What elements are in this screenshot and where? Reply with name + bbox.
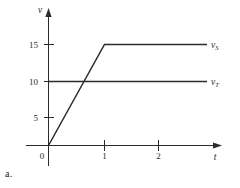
x-tick-label-1: 1 — [102, 151, 107, 161]
velocity-time-chart: 15 10 5 0 1 2 v t vS vT — [0, 0, 240, 188]
figure-caption: a. — [5, 168, 12, 179]
series-label-vs: vS — [211, 40, 219, 51]
x-tick-label-2: 2 — [156, 151, 161, 161]
series-label-vs-subscript: S — [215, 44, 219, 51]
series-label-vt-subscript: T — [215, 81, 219, 88]
series-line-vs — [49, 45, 208, 146]
y-axis-arrow-icon — [45, 8, 51, 17]
y-tick-label-15: 15 — [29, 40, 39, 50]
series-label-vt: vT — [211, 77, 219, 88]
y-tick-label-10: 10 — [29, 77, 39, 87]
origin-label: 0 — [40, 151, 45, 161]
y-tick-label-5: 5 — [34, 113, 39, 123]
x-axis-arrow-icon — [213, 142, 222, 148]
y-axis-label: v — [38, 5, 43, 15]
figure-container: 15 10 5 0 1 2 v t vS vT a. — [0, 0, 240, 188]
x-axis-label: t — [214, 152, 217, 162]
